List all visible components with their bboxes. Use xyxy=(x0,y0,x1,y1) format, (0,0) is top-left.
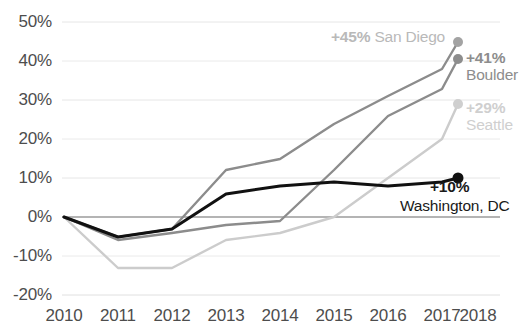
x-axis-label-2010: 2010 xyxy=(37,306,91,326)
x-axis-label-2014: 2014 xyxy=(253,306,307,326)
series-annotation-san-diego: +45% San Diego xyxy=(331,28,445,45)
series-line-boulder xyxy=(64,59,458,240)
series-annotation-seattle: +29% Seattle xyxy=(466,99,513,133)
x-axis-label-2011: 2011 xyxy=(91,306,145,326)
series-annotation-washington-dc: +10% Washington, DC xyxy=(430,178,469,195)
endpoint-dot-seattle xyxy=(453,99,463,109)
x-axis-label-2012: 2012 xyxy=(145,306,199,326)
x-axis-label-2016: 2016 xyxy=(361,306,415,326)
boulder-name: Boulder xyxy=(466,66,518,83)
y-axis-label-20: 20% xyxy=(0,129,52,149)
x-axis-label-2018: 2018 xyxy=(451,306,505,326)
y-axis-label-0: 0% xyxy=(0,207,52,227)
y-axis-label-minus10: -10% xyxy=(0,246,52,266)
x-axis-label-2013: 2013 xyxy=(199,306,253,326)
series-line-washington-dc xyxy=(64,178,458,237)
seattle-name: Seattle xyxy=(466,116,513,133)
washington-dc-name: Washington, DC xyxy=(400,197,509,214)
endpoint-dot-boulder xyxy=(453,54,463,64)
endpoint-dot-san-diego xyxy=(453,37,463,47)
y-axis-label-50: 50% xyxy=(0,12,52,32)
chart-plot-area xyxy=(0,0,531,333)
boulder-value: +41% xyxy=(466,49,505,66)
san-diego-name: San Diego xyxy=(374,28,445,45)
san-diego-value: +45% xyxy=(331,28,370,45)
y-axis-label-10: 10% xyxy=(0,168,52,188)
series-annotation-boulder: +41% Boulder xyxy=(466,49,518,83)
y-axis-label-30: 30% xyxy=(0,90,52,110)
seattle-value: +29% xyxy=(466,99,505,116)
x-axis-label-2015: 2015 xyxy=(307,306,361,326)
line-chart: 50% 40% 30% 20% 10% 0% -10% -20% 2010 20… xyxy=(0,0,531,333)
washington-dc-value: +10% xyxy=(430,178,469,195)
y-axis-label-40: 40% xyxy=(0,51,52,71)
y-axis-label-minus20: -20% xyxy=(0,285,52,305)
